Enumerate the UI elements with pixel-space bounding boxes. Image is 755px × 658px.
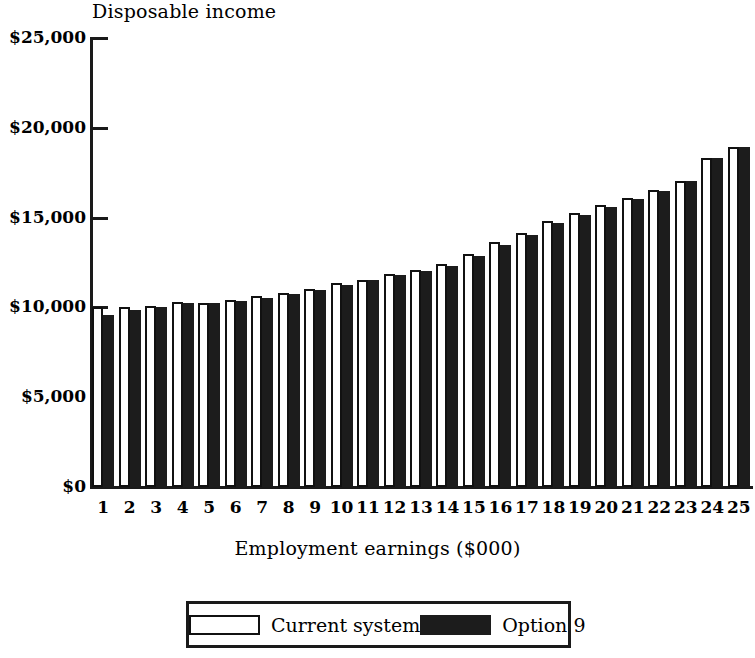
x-axis-tick-label: 11 [355, 497, 381, 517]
chart-figure: Disposable income $0$5,000$10,000$15,000… [0, 0, 755, 658]
x-axis-tick-label: 22 [646, 497, 672, 517]
bar-current-system [331, 283, 342, 487]
bar-group [567, 38, 593, 487]
bar-option-9 [342, 285, 353, 487]
x-axis-tick-label: 13 [408, 497, 434, 517]
x-axis-tick-label: 19 [567, 497, 593, 517]
bar-option-9 [712, 158, 723, 487]
bar-group [169, 38, 195, 487]
bar-current-system [728, 147, 739, 487]
bar-group [673, 38, 699, 487]
bar-group [434, 38, 460, 487]
bar-group [328, 38, 354, 487]
bar-current-system [251, 296, 262, 487]
bar-option-9 [527, 235, 538, 487]
x-axis-tick-label: 24 [699, 497, 725, 517]
bar-current-system [357, 280, 368, 487]
bar-option-9 [395, 275, 406, 487]
x-axis-tick-label: 20 [593, 497, 619, 517]
legend-swatch-option-9 [420, 615, 491, 635]
bar-option-9 [209, 303, 220, 487]
bar-option-9 [606, 207, 617, 487]
y-axis-tick-label: $15,000 [2, 207, 86, 227]
x-axis-title: Employment earnings ($000) [0, 537, 755, 559]
bar-group [726, 38, 752, 487]
bar-current-system [463, 254, 474, 487]
x-axis-tick-label: 16 [487, 497, 513, 517]
bar-option-9 [739, 147, 750, 487]
bar-current-system [304, 289, 315, 487]
x-axis-tick-label: 5 [196, 497, 222, 517]
bar-current-system [410, 270, 421, 487]
plot-area [90, 38, 752, 487]
bar-current-system [648, 190, 659, 487]
x-axis-tick-label: 12 [381, 497, 407, 517]
x-axis-tick-label: 21 [620, 497, 646, 517]
bar-group [116, 38, 142, 487]
bar-group [249, 38, 275, 487]
bar-group [699, 38, 725, 487]
bar-current-system [516, 233, 527, 487]
bar-group [646, 38, 672, 487]
bar-option-9 [156, 307, 167, 487]
bar-group [143, 38, 169, 487]
bar-current-system [172, 302, 183, 487]
bar-group [90, 38, 116, 487]
legend-label-option-9: Option 9 [502, 614, 585, 636]
bar-group [461, 38, 487, 487]
y-axis-tick-label: $5,000 [2, 386, 86, 406]
bar-option-9 [447, 266, 458, 487]
x-axis-tick-label: 2 [116, 497, 142, 517]
bar-group [487, 38, 513, 487]
x-axis-tick-label: 14 [434, 497, 460, 517]
bar-current-system [569, 213, 580, 487]
bar-option-9 [553, 223, 564, 487]
y-axis-tick-label: $0 [2, 476, 86, 496]
bar-current-system [225, 300, 236, 487]
y-axis-tick-label: $25,000 [2, 27, 86, 47]
x-axis-tick-label: 23 [673, 497, 699, 517]
bar-current-system [675, 181, 686, 487]
bar-group [196, 38, 222, 487]
bar-current-system [92, 307, 103, 487]
bar-current-system [119, 307, 130, 487]
y-axis-tick-labels: $0$5,000$10,000$15,000$20,000$25,000 [0, 0, 86, 658]
bar-group [302, 38, 328, 487]
bar-group [540, 38, 566, 487]
bar-group [381, 38, 407, 487]
bar-group [514, 38, 540, 487]
bar-option-9 [500, 245, 511, 487]
legend-entry-current-system: Current system [189, 614, 420, 636]
x-axis-tick-label: 8 [275, 497, 301, 517]
x-axis-tick-label: 18 [540, 497, 566, 517]
x-axis-tick-label: 3 [143, 497, 169, 517]
bar-current-system [436, 264, 447, 487]
bar-option-9 [289, 294, 300, 487]
bar-option-9 [368, 280, 379, 487]
x-axis-tick-label: 9 [302, 497, 328, 517]
legend-label-current-system: Current system [271, 614, 420, 636]
legend-entry-option-9: Option 9 [420, 614, 585, 636]
bar-option-9 [686, 181, 697, 487]
bar-current-system [489, 242, 500, 487]
x-axis-tick-label: 4 [169, 497, 195, 517]
x-axis-tick-label: 10 [328, 497, 354, 517]
bar-option-9 [474, 256, 485, 487]
bar-option-9 [580, 215, 591, 487]
bar-option-9 [262, 298, 273, 487]
bar-group [275, 38, 301, 487]
y-axis-tick-label: $20,000 [2, 117, 86, 137]
x-axis-tick-label: 6 [222, 497, 248, 517]
bar-current-system [145, 306, 156, 487]
x-axis-tick-label: 1 [90, 497, 116, 517]
bar-option-9 [130, 310, 141, 487]
bar-option-9 [633, 199, 644, 487]
legend-swatch-current-system [189, 615, 260, 635]
bar-current-system [701, 158, 712, 487]
bar-option-9 [315, 290, 326, 487]
bar-current-system [198, 303, 209, 487]
x-axis-tick-label: 7 [249, 497, 275, 517]
bar-group [620, 38, 646, 487]
bar-group [593, 38, 619, 487]
bar-option-9 [659, 191, 670, 487]
